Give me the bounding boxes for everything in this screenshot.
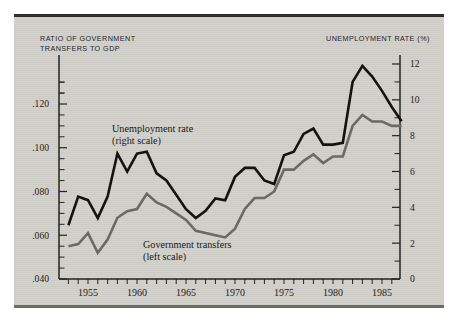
- left-tick-label: .100: [32, 142, 49, 153]
- right-axis-tick-labels: 121086420: [410, 58, 420, 284]
- annotation-transfers-line1: Government transfers: [143, 239, 232, 250]
- right-tick-label: 8: [410, 130, 415, 141]
- left-tick-label: .060: [32, 230, 49, 241]
- annotation-unemployment-line2: (right scale): [112, 135, 161, 147]
- annotation-transfers-line2: (left scale): [143, 251, 186, 263]
- left-axis-tick-labels: .120.100.080.060.040: [32, 98, 49, 284]
- left-tick-label: .040: [32, 273, 49, 284]
- x-tick-label: 1970: [225, 287, 245, 298]
- x-tick-label: 1975: [274, 287, 294, 298]
- right-tick-label: 4: [410, 202, 415, 213]
- x-tick-label: 1965: [176, 287, 196, 298]
- x-tick-label: 1980: [323, 287, 343, 298]
- right-tick-label: 6: [410, 166, 415, 177]
- right-tick-label: 0: [410, 273, 415, 284]
- x-tick-label: 1960: [127, 287, 147, 298]
- annotation-unemployment-line1: Unemployment rate: [112, 123, 194, 134]
- left-axis-title-line1: RATIO OF GOVERNMENT: [40, 34, 136, 43]
- left-tick-label: .080: [32, 186, 49, 197]
- left-tick-label: .120: [32, 98, 49, 109]
- x-tick-label: 1955: [78, 287, 98, 298]
- right-tick-label: 12: [410, 58, 420, 69]
- x-tick-label: 1985: [372, 287, 392, 298]
- left-axis-title-line2: TRANSFERS TO GDP: [40, 44, 120, 53]
- right-axis-ticks: [392, 64, 400, 279]
- chart-svg: RATIO OF GOVERNMENT TRANSFERS TO GDP UNE…: [0, 0, 458, 322]
- right-tick-label: 10: [410, 94, 420, 105]
- right-axis-title: UNEMPLOYMENT RATE (%): [326, 34, 430, 43]
- left-axis-ticks: [59, 82, 67, 279]
- x-axis-tick-labels: 1955196019651970197519801985: [78, 287, 392, 298]
- figure-container: RATIO OF GOVERNMENT TRANSFERS TO GDP UNE…: [0, 0, 458, 322]
- right-tick-label: 2: [410, 238, 415, 249]
